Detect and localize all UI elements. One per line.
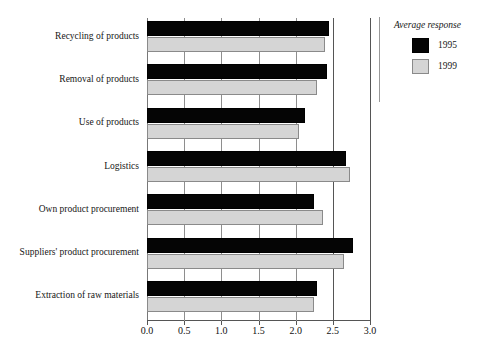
axis-tick-label: 2.5 xyxy=(327,325,340,336)
bar-1999 xyxy=(147,254,344,269)
gridline xyxy=(370,18,371,321)
legend-entry: 1999 xyxy=(412,59,483,74)
bar-1999 xyxy=(147,80,317,95)
plot-area: 0.00.51.01.52.02.53.0 xyxy=(147,18,370,321)
chart-legend: Average response 19951999 xyxy=(386,20,483,80)
bar-1995 xyxy=(147,108,305,123)
axis-tick-label: 0.5 xyxy=(178,325,191,336)
category-label: Removal of products xyxy=(0,74,139,84)
legend-divider xyxy=(379,17,380,102)
bar-1995 xyxy=(147,151,346,166)
bar-1999 xyxy=(147,167,350,182)
bar-1999 xyxy=(147,124,299,139)
bar-1999 xyxy=(147,210,323,225)
legend-swatch-icon xyxy=(412,59,429,74)
bar-1995 xyxy=(147,194,314,209)
bar-1995 xyxy=(147,238,353,253)
category-label: Extraction of raw materials xyxy=(0,290,139,300)
category-label: Own product procurement xyxy=(0,204,139,214)
legend-entry: 1995 xyxy=(412,38,483,53)
category-label: Suppliers' product procurement xyxy=(0,247,139,257)
category-axis-labels: Recycling of productsRemoval of products… xyxy=(0,18,143,321)
legend-label: 1995 xyxy=(438,40,457,51)
bar-1995 xyxy=(147,64,327,79)
axis-tick-label: 1.0 xyxy=(215,325,228,336)
legend-swatch-icon xyxy=(412,38,429,53)
bar-1999 xyxy=(147,37,325,52)
axis-tick-label: 2.0 xyxy=(289,325,302,336)
category-label: Use of products xyxy=(0,117,139,127)
bar-1995 xyxy=(147,281,317,296)
axis-tick-label: 1.5 xyxy=(252,325,265,336)
bar-1995 xyxy=(147,21,329,36)
legend-title: Average response xyxy=(394,20,483,31)
axis-tick-label: 0.0 xyxy=(141,325,154,336)
axis-tick-label: 3.0 xyxy=(364,325,377,336)
legend-entries: 19951999 xyxy=(386,38,483,74)
bar-chart: Recycling of productsRemoval of products… xyxy=(0,0,483,362)
legend-label: 1999 xyxy=(438,61,457,72)
bar-1999 xyxy=(147,297,314,312)
category-label: Recycling of products xyxy=(0,31,139,41)
category-label: Logistics xyxy=(0,161,139,171)
